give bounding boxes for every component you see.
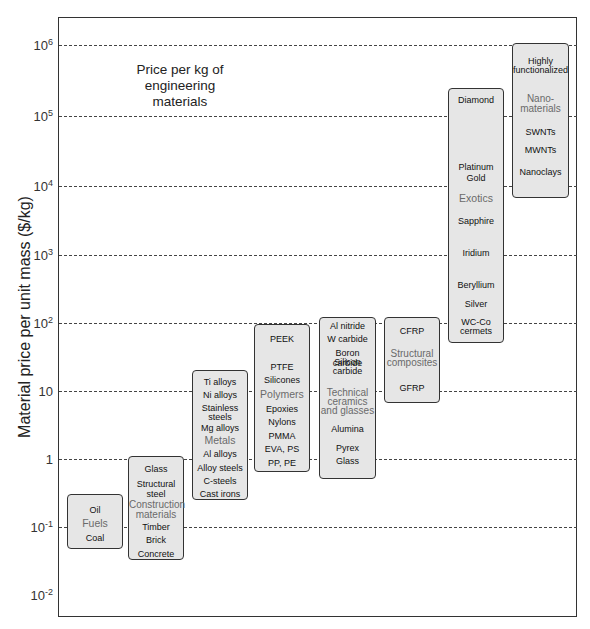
box-metals: Ti alloys Ni alloys Stainless steels Mg … [192,370,248,500]
box-structural-composites: CFRP Structural composites GFRP [384,317,440,403]
item-pmma: PMMA [255,431,309,441]
item-glass-ceramic: Glass [320,456,375,466]
item-eva-ps: EVA, PS [255,444,309,454]
item-glass: Glass [129,464,183,474]
item-cast-irons: Cast irons [193,489,247,499]
item-silver: Silver [449,299,503,309]
y-axis-label: Material price per unit mass ($/kg) [16,196,34,438]
item-diamond: Diamond [449,95,503,105]
item-mg-alloys: Mg alloys [193,423,247,433]
item-silicon-carbide: Silicon carbide [320,358,375,376]
item-wc-co-cermets: WC-Co cermets [449,318,503,336]
ytick-1e5: 105 [3,108,53,124]
item-brick: Brick [129,535,183,545]
item-al-alloys: Al alloys [193,449,247,459]
box-fuels: Oil Fuels Coal [67,494,123,549]
item-timber: Timber [129,522,183,532]
item-c-steels: C-steels [193,476,247,486]
box-exotics: Diamond Platinum Gold Exotics Sapphire I… [448,88,504,343]
category-structural-composites: Structural composites [385,349,439,367]
item-silicones: Silicones [255,375,309,385]
item-nanoclays: Nanoclays [513,167,568,177]
item-mwnts: MWNTs [513,145,568,155]
category-exotics: Exotics [449,193,503,204]
item-iridium: Iridium [449,248,503,258]
item-platinum: Platinum [449,162,503,172]
item-stainless-steels: Stainless steels [193,404,247,422]
item-sapphire: Sapphire [449,216,503,226]
item-coal: Coal [68,533,122,543]
category-metals: Metals [193,435,247,446]
box-polymers: PEEK PTFE Silicones Polymers Epoxies Nyl… [254,324,310,472]
ytick-1e-1: 10-1 [3,519,53,535]
item-gold: Gold [449,173,503,183]
item-alloy-steels: Alloy steels [193,463,247,473]
item-highly-functionalized: Highly functionalized [513,57,568,75]
item-nylons: Nylons [255,417,309,427]
gridline-1e1 [59,391,577,392]
item-peek: PEEK [255,334,309,344]
item-alumina: Alumina [320,424,375,434]
item-gfrp: GFRP [385,383,439,393]
category-polymers: Polymers [255,389,309,400]
category-construction-materials: Construction materials [129,500,183,520]
category-technical-ceramics: Technical ceramics and glasses [320,388,375,415]
item-swnts: SWNTs [513,127,568,137]
item-beryllium: Beryllium [449,280,503,290]
category-nano-materials: Nano- materials [513,94,568,114]
item-pyrex: Pyrex [320,443,375,453]
category-fuels: Fuels [68,518,122,529]
item-pp-pe: PP, PE [255,458,309,468]
ytick-1: 1 [3,452,53,467]
item-concrete: Concrete [129,549,183,559]
item-ti-alloys: Ti alloys [193,377,247,387]
item-oil: Oil [68,505,122,515]
ytick-1e4: 104 [3,178,53,194]
gridline-1e6 [59,45,577,46]
box-nano-materials: Highly functionalized Nano- materials SW… [512,43,569,198]
box-technical-ceramics: Al nitride W carbide Boron carbide Silic… [319,317,376,479]
ytick-1e-2: 10-2 [3,587,53,603]
item-ptfe: PTFE [255,362,309,372]
box-construction-materials: Glass Structural steel Construction mate… [128,456,184,560]
item-ni-alloys: Ni alloys [193,390,247,400]
item-epoxies: Epoxies [255,404,309,414]
item-cfrp: CFRP [385,326,439,336]
item-al-nitride: Al nitride [320,321,375,331]
ytick-1e6: 106 [3,37,53,53]
item-structural-steel: Structural steel [129,479,183,499]
chart-title: Price per kg of engineering materials [120,62,240,110]
item-w-carbide: W carbide [320,334,375,344]
